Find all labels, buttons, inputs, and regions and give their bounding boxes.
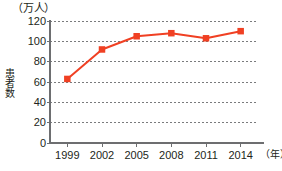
data-point-marker	[168, 30, 175, 37]
line-chart: （万人） 患者数 020406080100120 199920022005200…	[0, 0, 282, 171]
data-point-marker	[99, 46, 106, 53]
series-line	[67, 31, 240, 79]
plot-area	[0, 0, 282, 171]
data-point-marker	[237, 28, 244, 34]
data-point-marker	[133, 33, 140, 40]
data-point-marker	[64, 76, 71, 83]
data-point-marker	[203, 35, 210, 42]
